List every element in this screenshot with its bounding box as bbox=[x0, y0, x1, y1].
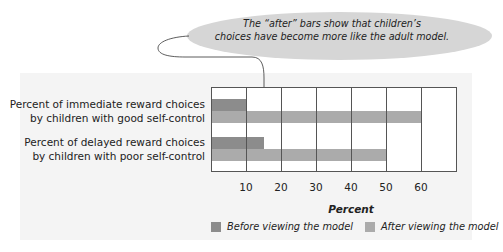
gridline-20 bbox=[281, 88, 282, 171]
legend-item-before: Before viewing the model bbox=[211, 221, 353, 232]
gridline-50 bbox=[386, 88, 387, 171]
x-tick-50: 50 bbox=[371, 181, 401, 193]
x-tick-10: 10 bbox=[231, 181, 261, 193]
bar-immediate-after bbox=[212, 111, 422, 123]
gridline-60 bbox=[421, 88, 422, 171]
category-label-delayed: Percent of delayed reward choices by chi… bbox=[24, 135, 205, 163]
legend-swatch-before-icon bbox=[211, 222, 221, 232]
gridline-30 bbox=[316, 88, 317, 171]
bar-immediate-before bbox=[212, 99, 247, 111]
legend-item-after: After viewing the model bbox=[365, 221, 499, 232]
gridline-40 bbox=[351, 88, 352, 171]
legend: Before viewing the model After viewing t… bbox=[211, 221, 503, 232]
bar-delayed-after bbox=[212, 149, 387, 161]
x-axis-label: Percent bbox=[311, 203, 391, 215]
gridline-10 bbox=[246, 88, 247, 171]
category-label-immediate: Percent of immediate reward choices by c… bbox=[10, 97, 205, 125]
legend-swatch-after-icon bbox=[365, 222, 375, 232]
x-tick-30: 30 bbox=[301, 181, 331, 193]
x-tick-40: 40 bbox=[336, 181, 366, 193]
x-tick-60: 60 bbox=[406, 181, 436, 193]
plot-area bbox=[211, 87, 457, 172]
bar-delayed-before bbox=[212, 137, 264, 149]
x-tick-20: 20 bbox=[266, 181, 296, 193]
